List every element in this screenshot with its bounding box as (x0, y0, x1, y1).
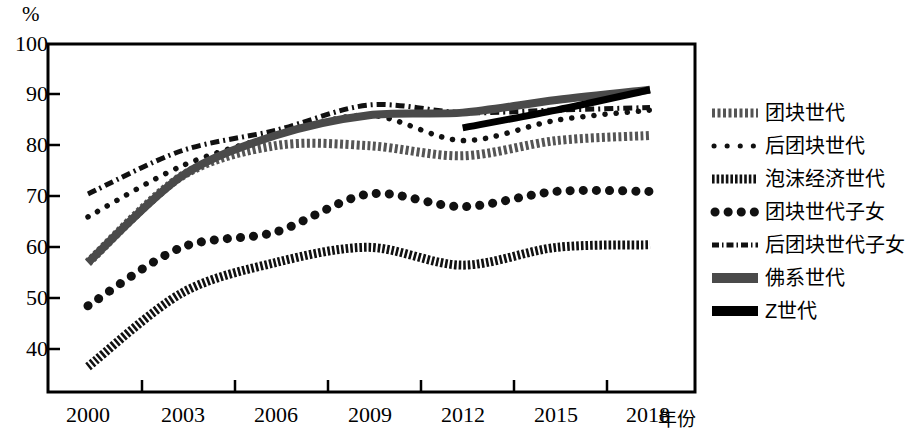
series-line-1 (88, 110, 650, 217)
data-series-layer (88, 90, 650, 367)
legend-label: 佛系世代 (765, 268, 845, 288)
legend-swatch-dash-dot-icon (712, 238, 758, 252)
legend-swatch-thick-dotted-gray-icon (712, 106, 758, 120)
legend-label: 团块世代子女 (765, 202, 885, 222)
legend-label: 后团块世代子女 (765, 235, 905, 255)
legend-label: 泡沫经济世代 (765, 169, 885, 189)
y-axis-ticks (48, 94, 60, 349)
legend-label: Z世代 (765, 301, 817, 321)
legend-swatch-thick-black-solid-icon (712, 304, 758, 318)
x-axis-ticks (142, 380, 607, 392)
legend-item-danketsu-sedai[interactable]: 团块世代 (712, 96, 892, 129)
legend-item-bubble-keizai-sedai[interactable]: 泡沫经济世代 (712, 162, 892, 195)
legend-item-z-sedai[interactable]: Z世代 (712, 294, 892, 327)
legend-swatch-dense-dashed-icon (712, 172, 758, 186)
legend-item-ato-danketsu-sedai-shijo[interactable]: 后团块世代子女 (712, 228, 892, 261)
series-line-5 (88, 90, 650, 263)
series-line-2 (88, 245, 650, 367)
legend-label: 团块世代 (765, 103, 845, 123)
chart-legend: 团块世代 后团块世代 泡沫经济世代 团块世代子女 后团块世代子女 (712, 96, 892, 327)
legend-label: 后团块世代 (765, 136, 865, 156)
legend-item-danketsu-sedai-shijo[interactable]: 团块世代子女 (712, 195, 892, 228)
legend-swatch-fine-dotted-icon (712, 139, 758, 153)
legend-item-ato-danketsu-sedai[interactable]: 后团块世代 (712, 129, 892, 162)
legend-swatch-bold-dotted-icon (712, 205, 758, 219)
legend-item-bukkei-sedai[interactable]: 佛系世代 (712, 261, 892, 294)
legend-swatch-thick-gray-solid-icon (712, 271, 758, 285)
